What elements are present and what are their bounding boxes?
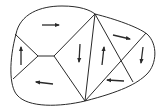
edge-left-lower-spoke (13, 56, 38, 79)
edge-left-upper-spoke (15, 34, 38, 56)
arrow-down-icon (141, 47, 143, 63)
edge-center-divider (85, 14, 95, 101)
arrow-left-icon (36, 82, 53, 84)
arrow-up-icon (102, 47, 104, 65)
edge-hub-to-bottom (54, 56, 85, 101)
arrow-down-icon (79, 44, 80, 62)
outer-boundary (11, 6, 155, 105)
arrow-right-icon (113, 35, 130, 39)
diagram-canvas (0, 0, 165, 112)
edge-right-top-to-bottom (85, 33, 146, 101)
partition-diagram (0, 0, 165, 112)
arrow-left-icon (107, 80, 124, 81)
edge-hub-to-top (54, 14, 95, 56)
flow-arrows (21, 25, 143, 84)
